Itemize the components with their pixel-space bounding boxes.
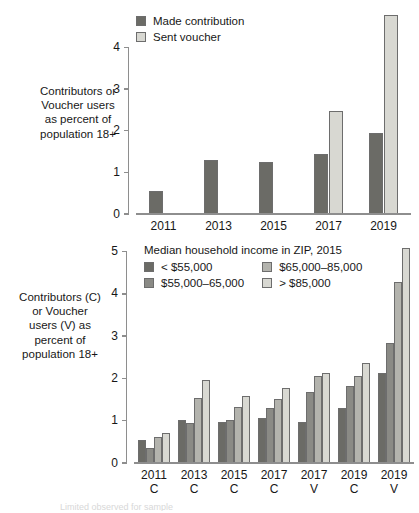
top-chart-x-tick-label: 2013 xyxy=(191,220,246,234)
bar xyxy=(146,448,154,463)
top-chart-y-tick xyxy=(124,172,129,173)
bottom-chart-x-tick-label: 2015 C xyxy=(214,469,254,496)
bottom-chart-x-axis-baseline xyxy=(134,462,414,463)
bar xyxy=(306,392,314,463)
bar xyxy=(369,133,383,214)
top-chart-y-tick xyxy=(124,130,129,131)
bar xyxy=(218,422,226,463)
top-chart-x-tick-label: 2017 xyxy=(301,220,356,234)
top-chart-x-axis-baseline xyxy=(136,213,411,214)
bar xyxy=(329,111,343,214)
bar xyxy=(259,162,273,214)
bottom-chart-y-axis-label: Contributors (C) or Voucher users (V) as… xyxy=(8,290,112,361)
bottom-chart-y-tick xyxy=(122,251,127,252)
bar xyxy=(258,418,266,463)
bar xyxy=(354,376,362,463)
top-chart-y-tick xyxy=(124,47,129,48)
top-chart-plot-area xyxy=(136,8,411,214)
bottom-chart-x-tick-label: 2011 C xyxy=(134,469,174,496)
bar xyxy=(178,420,186,463)
bottom-chart-y-tick-label: 2 xyxy=(92,372,118,384)
figure-caption-partial: Limited observed for sample xyxy=(60,502,360,511)
bar xyxy=(204,160,218,214)
bottom-chart-x-tick-label: 2019 C xyxy=(334,469,374,496)
bar xyxy=(186,423,194,463)
top-chart-y-tick xyxy=(124,213,129,214)
bottom-chart-x-tick-label: 2019 V xyxy=(374,469,414,496)
bottom-chart-x-tick-label: 2017 V xyxy=(294,469,334,496)
bar xyxy=(138,440,146,463)
bar xyxy=(282,388,290,463)
bar xyxy=(378,373,386,463)
bar xyxy=(202,380,210,463)
bar xyxy=(162,433,170,463)
bar xyxy=(266,408,274,463)
bar xyxy=(362,363,370,463)
bar xyxy=(149,191,163,214)
bar xyxy=(314,376,322,463)
bottom-chart-y-tick xyxy=(122,335,127,336)
bottom-chart-plot-area xyxy=(134,241,414,463)
bottom-chart-x-tick-label: 2017 C xyxy=(254,469,294,496)
bar xyxy=(346,386,354,463)
bottom-chart-y-tick xyxy=(122,462,127,463)
bar xyxy=(338,408,346,463)
top-chart-x-tick-label: 2019 xyxy=(356,220,411,234)
chart-panel-top: Contributors or Voucher users as percent… xyxy=(0,0,419,235)
top-chart-y-tick xyxy=(124,88,129,89)
figure-two-panel-bar-charts: Contributors or Voucher users as percent… xyxy=(0,0,419,513)
bar xyxy=(194,398,202,463)
bar xyxy=(154,437,162,463)
bottom-chart-y-tick-label: 4 xyxy=(92,287,118,299)
bar xyxy=(234,407,242,463)
bottom-chart-axis-spine xyxy=(126,252,127,463)
bar xyxy=(242,396,250,463)
bar xyxy=(322,373,330,463)
top-chart-y-tick-label: 4 xyxy=(94,41,120,53)
bottom-chart-y-tick-label: 5 xyxy=(92,245,118,257)
chart-panel-bottom: Contributors (C) or Voucher users (V) as… xyxy=(0,235,419,513)
bottom-chart-y-tick-label: 1 xyxy=(92,414,118,426)
bottom-chart-y-tick xyxy=(122,293,127,294)
bottom-chart-y-tick-label: 3 xyxy=(92,330,118,342)
top-chart-y-tick-label: 2 xyxy=(94,124,120,136)
bar xyxy=(384,15,398,214)
bar xyxy=(226,420,234,463)
bottom-chart-y-tick-label: 0 xyxy=(92,457,118,469)
bar xyxy=(394,282,402,463)
bar xyxy=(298,422,306,463)
top-chart-x-tick-label: 2015 xyxy=(246,220,301,234)
bottom-chart-y-tick xyxy=(122,378,127,379)
top-chart-y-tick-label: 0 xyxy=(94,208,120,220)
bottom-chart-x-tick-label: 2013 C xyxy=(174,469,214,496)
top-chart-y-tick-label: 3 xyxy=(94,83,120,95)
bar xyxy=(402,248,410,463)
bar xyxy=(314,154,328,214)
top-chart-x-tick-label: 2011 xyxy=(136,220,191,234)
bar xyxy=(386,343,394,464)
bottom-chart-y-tick xyxy=(122,420,127,421)
bar xyxy=(274,399,282,463)
top-chart-y-tick-label: 1 xyxy=(94,166,120,178)
